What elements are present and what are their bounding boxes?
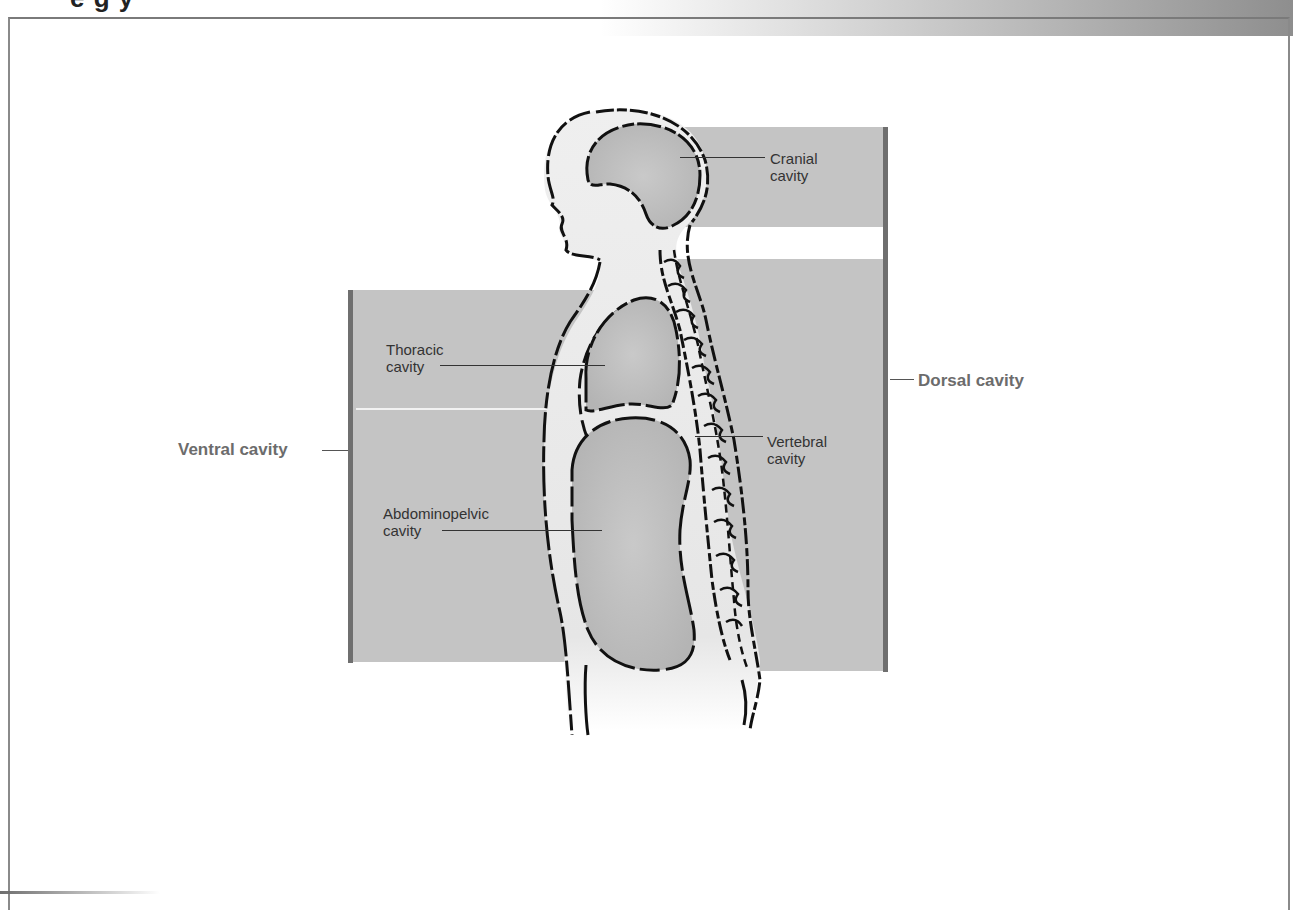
thoracic-leader-line [440, 365, 605, 366]
cranial-cavity-label: Cranial cavity [770, 150, 818, 184]
abdominopelvic-cavity-shape [572, 418, 694, 670]
ventral-leader-line [322, 450, 348, 451]
vertebral-leader-line [695, 436, 763, 437]
abdominopelvic-cavity-label: Abdominopelvic cavity [383, 505, 489, 539]
thoracic-cavity-label: Thoracic cavity [386, 341, 444, 375]
ventral-cavity-label: Ventral cavity [178, 440, 288, 460]
vertebral-cavity-label: Vertebral cavity [767, 433, 827, 467]
dorsal-leader-line [890, 379, 914, 380]
cranial-leader-line [680, 157, 765, 158]
dorsal-cavity-label: Dorsal cavity [918, 371, 1024, 391]
